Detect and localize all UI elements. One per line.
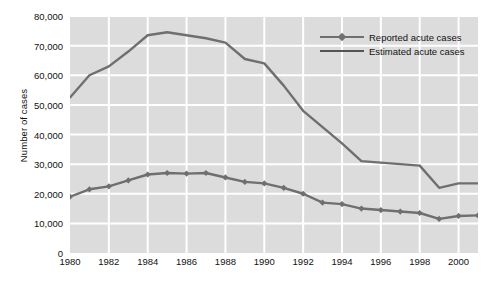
x-tick-label: 1994 [331,256,352,267]
y-tick-label: 60,000 [34,70,63,81]
series-marker [339,201,345,207]
y-tick-label: 70,000 [34,40,63,51]
series-marker [125,177,131,183]
series-marker [417,210,423,216]
series-marker [222,174,228,180]
x-tick-label: 1986 [176,256,197,267]
chart-figure: Number of cases 010,00020,00030,00040,00… [0,0,486,287]
x-tick-label: 1990 [254,256,275,267]
legend-swatch-reported [320,31,364,43]
series-marker [378,207,384,213]
series-marker [261,180,267,186]
y-tick-label: 20,000 [34,188,63,199]
series-line-reported-acute-cases [70,173,478,219]
y-tick-label: 40,000 [34,129,63,140]
x-tick-label: 1996 [370,256,391,267]
series-marker [242,179,248,185]
x-tick-label: 1984 [137,256,158,267]
series-marker [145,171,151,177]
series-marker [106,183,112,189]
x-tick-label: 1980 [59,256,80,267]
x-tick-label: 1998 [409,256,430,267]
y-tick-label: 10,000 [34,218,63,229]
x-tick-label: 2000 [448,256,469,267]
series-marker [281,185,287,191]
y-tick-label: 30,000 [34,159,63,170]
series-marker [183,171,189,177]
series-marker [455,213,461,219]
x-axis-tick-labels: 1980198219841986198819901992199419961998… [0,256,486,274]
series-marker [436,216,442,222]
series-marker [397,208,403,214]
legend-item-reported: Reported acute cases [320,30,465,44]
legend-label-estimated: Estimated acute cases [369,46,465,57]
y-tick-label: 50,000 [34,99,63,110]
series-marker [86,186,92,192]
y-axis-tick-labels: 010,00020,00030,00040,00050,00060,00070,… [0,0,66,287]
legend-label-reported: Reported acute cases [369,32,461,43]
chart-legend: Reported acute cases Estimated acute cas… [320,30,465,58]
y-tick-label: 80,000 [34,11,63,22]
legend-swatch-estimated [320,45,364,57]
x-tick-label: 1982 [98,256,119,267]
series-marker [475,212,478,218]
x-tick-label: 1992 [293,256,314,267]
series-marker [164,170,170,176]
x-tick-label: 1988 [215,256,236,267]
series-marker [358,205,364,211]
legend-item-estimated: Estimated acute cases [320,44,465,58]
series-marker [203,170,209,176]
